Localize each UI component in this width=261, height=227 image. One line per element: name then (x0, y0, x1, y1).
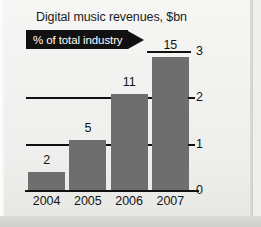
y-tick-label-1: 1 (196, 137, 203, 151)
page-edge-left (0, 0, 4, 227)
x-tick-label-2006: 2006 (109, 194, 150, 208)
bar-value-label-2007: 15 (144, 38, 197, 52)
chart-title: Digital music revenues, $bn (36, 10, 187, 24)
x-tick-label-2004: 2004 (26, 194, 67, 208)
y-tick-mark-1 (188, 144, 195, 146)
chart-figure: Digital music revenues, $bn % of total i… (0, 0, 261, 227)
y-tick-label-2: 2 (196, 90, 203, 104)
page-margin-right (253, 0, 261, 227)
bar-2007 (152, 57, 189, 191)
page-edge-bottom (0, 216, 261, 227)
bar-2006 (111, 94, 148, 191)
x-tick-label-2007: 2007 (150, 194, 191, 208)
bar-2005 (69, 140, 106, 191)
x-axis-line (25, 190, 199, 192)
bar-value-label-2004: 2 (20, 153, 73, 167)
x-tick-label-2005: 2005 (67, 194, 108, 208)
bar-value-label-2006: 11 (103, 75, 156, 89)
percent-of-total-industry-banner: % of total industry (26, 30, 144, 49)
bar-value-label-2005: 5 (61, 121, 114, 135)
banner-label: % of total industry (33, 34, 123, 46)
arrow-right-icon (128, 31, 144, 49)
bar-2004 (28, 172, 65, 191)
y-tick-mark-2 (188, 97, 195, 99)
y-tick-label-3: 3 (196, 44, 203, 58)
banner-body: % of total industry (26, 30, 128, 49)
x-axis-labels-group: 2004200520062007 (20, 194, 205, 212)
